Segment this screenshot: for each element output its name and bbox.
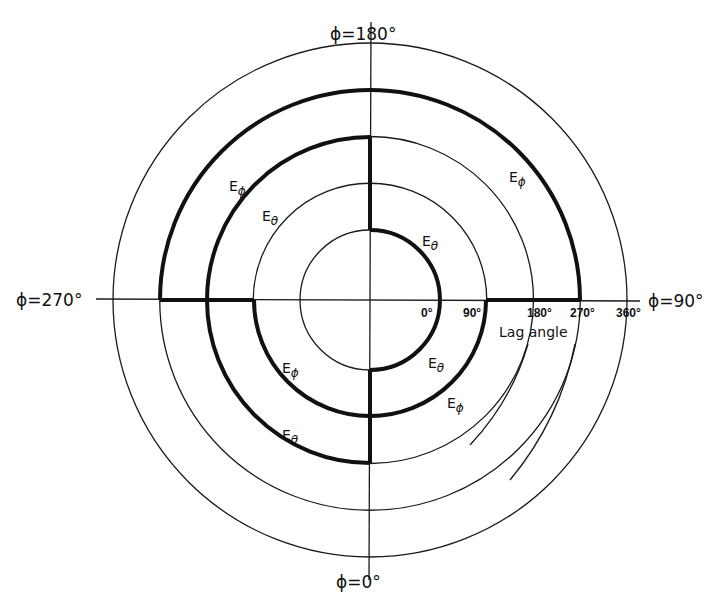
label-phi-90: ϕ=90°	[648, 291, 704, 311]
curve-label-e-phi: Eϕ	[509, 169, 526, 189]
curve-label-e-theta: Eθ	[422, 233, 439, 253]
tick-360: 360°	[616, 306, 641, 320]
label-phi-270: ϕ=270°	[16, 290, 82, 310]
tick-90: 90°	[463, 306, 481, 320]
e-phi-lower-left-arc	[254, 300, 370, 416]
vertical-axis	[369, 22, 371, 580]
polar-phase-diagram: ϕ=180° ϕ=90° ϕ=0° ϕ=270° 0° 90° 180° 270…	[0, 0, 717, 604]
curve-label-e-theta: Eθ	[428, 355, 445, 375]
lag-angle-caption: Lag angle	[499, 324, 568, 340]
curve-label-e-phi: Eϕ	[447, 395, 464, 415]
tick-180: 180°	[527, 306, 552, 320]
curve-label-e-theta: Eθ	[282, 427, 299, 447]
caption-pointer-1	[470, 344, 528, 445]
curve-label-e-theta: Eθ	[262, 208, 279, 228]
label-phi-0: ϕ=0°	[336, 572, 381, 592]
tick-0: 0°	[421, 306, 433, 320]
curve-label-e-phi: Eϕ	[229, 178, 246, 198]
label-phi-180: ϕ=180°	[330, 24, 396, 44]
tick-270: 270°	[570, 306, 595, 320]
